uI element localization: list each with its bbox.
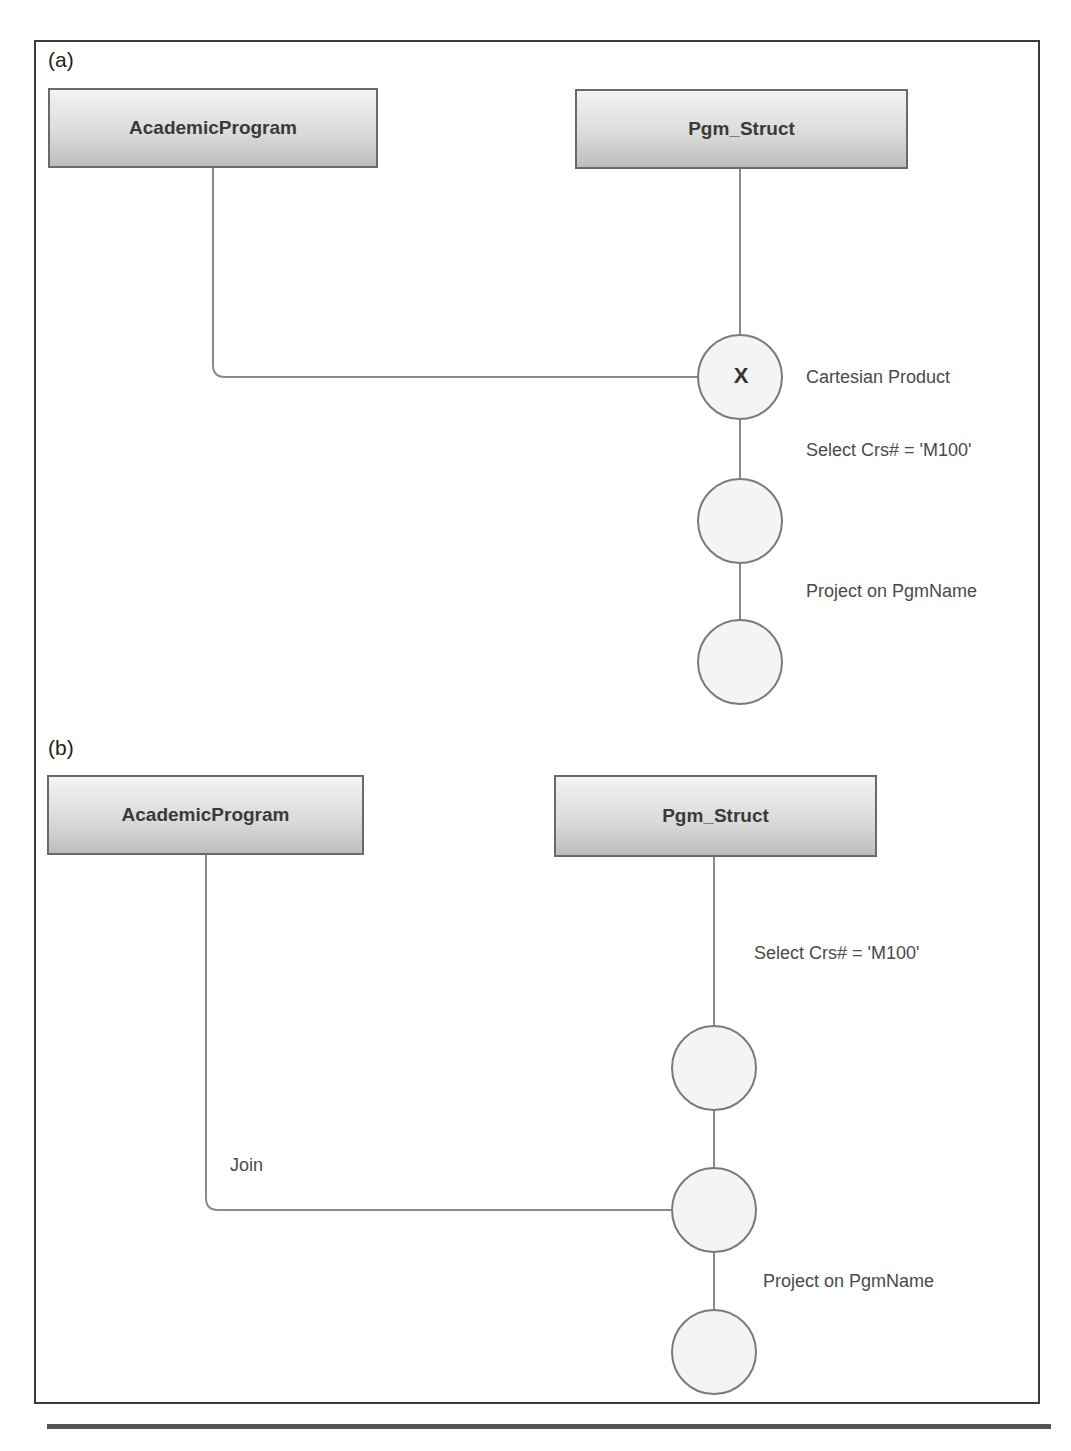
panel-a-label: (a) — [48, 48, 74, 72]
op-b-project-label: Project on PgmName — [763, 1271, 934, 1292]
op-b-select-label: Select Crs# = 'M100' — [754, 943, 919, 964]
edge-b-academic-to-join — [206, 854, 672, 1210]
caption-rule — [47, 1424, 1051, 1429]
node-b-join — [672, 1168, 756, 1252]
op-a-project-label: Project on PgmName — [806, 581, 977, 602]
table-name: Pgm_Struct — [662, 805, 769, 827]
table-name: AcademicProgram — [122, 804, 290, 826]
op-b-join-label: Join — [230, 1155, 263, 1176]
table-a-pgm-struct: Pgm_Struct — [575, 89, 908, 169]
cartesian-product-x-icon: X — [734, 363, 749, 389]
node-a-select — [698, 479, 782, 563]
table-name: AcademicProgram — [129, 117, 297, 139]
node-b-select — [672, 1026, 756, 1110]
table-a-academicprogram: AcademicProgram — [48, 88, 378, 168]
op-a-select-label: Select Crs# = 'M100' — [806, 440, 971, 461]
query-tree-connectors — [0, 0, 1071, 1451]
node-a-project — [698, 620, 782, 704]
op-a-cartesian-product-label: Cartesian Product — [806, 367, 950, 388]
node-b-project — [672, 1310, 756, 1394]
panel-b-label: (b) — [48, 736, 74, 760]
edge-a-academic-to-product — [213, 167, 698, 377]
table-name: Pgm_Struct — [688, 118, 795, 140]
table-b-pgm-struct: Pgm_Struct — [554, 775, 877, 857]
table-b-academicprogram: AcademicProgram — [47, 775, 364, 855]
